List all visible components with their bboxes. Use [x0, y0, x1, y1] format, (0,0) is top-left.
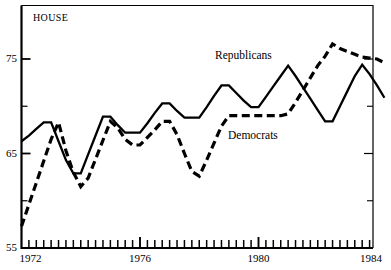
- chart-background: [0, 0, 391, 270]
- series-label-democrats: Democrats: [228, 129, 278, 141]
- x-axis-tick-label-1972: 1972: [20, 253, 42, 264]
- chart-canvas: [0, 0, 391, 270]
- x-axis-tick-label-1976: 1976: [129, 253, 151, 264]
- x-axis-tick-label-1980: 1980: [248, 253, 270, 264]
- y-axis-tick-label-55: 55: [0, 242, 17, 253]
- y-axis-tick-label-75: 75: [0, 53, 17, 64]
- y-axis-tick-label-65: 65: [0, 148, 17, 159]
- panel-title: HOUSE: [33, 12, 68, 23]
- house-party-identification-chart: HOUSE 75 65 55 1972 1976 1980 1984 Repub…: [0, 0, 391, 270]
- series-label-republicans: Republicans: [215, 49, 272, 61]
- x-axis-tick-label-1984: 1984: [360, 253, 382, 264]
